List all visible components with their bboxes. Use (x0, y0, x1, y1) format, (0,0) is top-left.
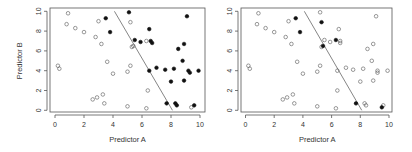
x-tick-label: 6 (140, 121, 144, 128)
filled-point (181, 59, 185, 63)
open-point (66, 11, 70, 15)
filled-point (320, 20, 324, 24)
open-point (318, 10, 322, 14)
open-point (328, 40, 332, 44)
filled-point (163, 68, 167, 72)
open-point (100, 42, 104, 46)
open-point (301, 72, 305, 76)
open-point (315, 70, 319, 74)
open-point (337, 27, 341, 31)
filled-point (321, 44, 325, 48)
open-point (334, 107, 338, 111)
open-point (257, 11, 261, 15)
series-open (247, 10, 390, 110)
series-filled (294, 16, 384, 109)
open-point (129, 64, 133, 68)
filled-point (139, 40, 143, 44)
filled-point (192, 104, 196, 108)
open-point (361, 67, 365, 71)
open-point (95, 96, 99, 100)
open-point (315, 105, 319, 109)
open-point (292, 102, 296, 106)
open-point (145, 39, 149, 43)
x-axis: 0246810 (53, 115, 204, 128)
y-tick-label: 8 (35, 29, 42, 33)
open-point (281, 98, 285, 102)
open-point (129, 20, 133, 24)
filled-point (380, 106, 384, 110)
open-point (374, 14, 378, 18)
x-axis: 0246810 (244, 115, 393, 128)
x-tick-label: 0 (244, 121, 248, 128)
y-tick-label: 0 (226, 108, 233, 112)
y-tick-label: 10 (226, 7, 233, 15)
filled-point (182, 79, 186, 83)
filled-point (197, 69, 201, 73)
x-tick-label: 10 (385, 121, 393, 128)
open-point (103, 102, 107, 106)
open-point (323, 38, 327, 42)
open-point (351, 68, 355, 72)
open-point (126, 70, 130, 74)
open-point (65, 22, 69, 26)
y-axis-title: Predictor B (15, 42, 24, 79)
filled-point (147, 27, 151, 31)
open-point (58, 67, 62, 71)
open-point (285, 96, 289, 100)
open-point (291, 93, 295, 97)
open-point (105, 60, 109, 64)
x-tick-label: 2 (272, 121, 276, 128)
open-point (255, 22, 259, 26)
filled-point (175, 104, 179, 108)
scatter-plots: 0246810Predictor A0246810Predictor B0246… (0, 0, 412, 152)
filled-point (182, 42, 186, 46)
y-tick-label: 6 (226, 49, 233, 53)
y-axis: 0246810 (35, 7, 47, 112)
open-point (111, 72, 115, 76)
open-point (336, 89, 340, 93)
x-tick-label: 6 (330, 121, 334, 128)
open-point (94, 35, 98, 39)
filled-point (354, 102, 358, 106)
x-tick-label: 4 (301, 121, 305, 128)
x-axis-title: Predictor A (299, 135, 336, 144)
filled-point (172, 67, 176, 71)
filled-point (147, 69, 151, 73)
open-point (370, 59, 374, 63)
open-point (145, 107, 149, 111)
open-point (264, 26, 268, 30)
y-axis: 0246810 (226, 7, 238, 112)
open-point (290, 42, 294, 46)
scatter-panel-1: 0246810Predictor A0246810Predictor B (15, 7, 205, 144)
filled-point (165, 102, 169, 106)
open-point (91, 98, 95, 102)
filled-point (155, 66, 159, 70)
filled-point (334, 38, 338, 42)
y-tick-label: 4 (226, 69, 233, 73)
open-point (371, 79, 375, 83)
open-point (248, 67, 252, 71)
open-point (318, 64, 322, 68)
y-tick-label: 2 (35, 88, 42, 92)
y-tick-label: 6 (35, 49, 42, 53)
open-point (74, 26, 78, 30)
open-point (295, 60, 299, 64)
y-tick-label: 0 (35, 108, 42, 112)
open-point (371, 42, 375, 46)
filled-point (150, 41, 154, 45)
open-point (386, 69, 390, 73)
filled-point (133, 38, 137, 42)
x-tick-label: 8 (169, 121, 173, 128)
open-point (146, 89, 150, 93)
filled-point (176, 47, 180, 51)
decision-boundary-line (304, 11, 361, 110)
series-open (56, 11, 193, 110)
series-filled (104, 10, 200, 107)
open-point (126, 105, 130, 109)
x-tick-label: 2 (82, 121, 86, 128)
x-tick-label: 4 (111, 121, 115, 128)
x-tick-label: 0 (53, 121, 57, 128)
open-point (97, 19, 101, 23)
filled-point (294, 16, 298, 20)
figure: 0246810Predictor A0246810Predictor B0246… (0, 0, 412, 152)
